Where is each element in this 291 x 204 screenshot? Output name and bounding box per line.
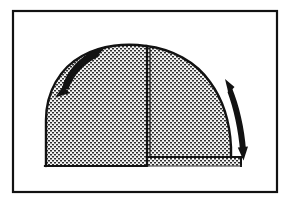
lower-right-shaded-band: [147, 157, 242, 166]
figure-container: Stippled dome diagram with bidirectional…: [0, 0, 291, 204]
figure-canvas: [0, 0, 291, 204]
